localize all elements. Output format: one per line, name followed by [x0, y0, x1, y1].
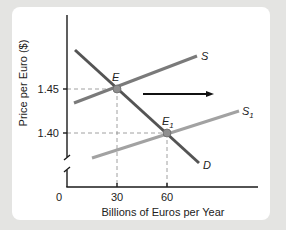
y-axis-title: Price per Euro ($) [17, 40, 29, 127]
x-axis-title: Billions of Euros per Year [102, 206, 225, 218]
x-tick-label-0: 0 [56, 191, 62, 203]
exchange-rate-chart: S S1 D E E1 1.45 1.40 0 30 60 Billions o… [0, 0, 286, 230]
demand-curve-d [75, 50, 199, 163]
axes [63, 15, 258, 187]
equilibrium-point-e [113, 85, 121, 93]
shift-arrow-icon [143, 91, 214, 97]
label-d: D [203, 159, 211, 171]
supply-curve-s [74, 56, 197, 103]
x-tick-label-60: 60 [161, 191, 173, 203]
equilibrium-point-e1 [163, 129, 171, 137]
label-s: S [201, 50, 209, 62]
x-tick-label-30: 30 [111, 191, 123, 203]
label-s1: S1 [242, 105, 254, 120]
y-tick-label-145: 1.45 [38, 83, 59, 95]
y-tick-label-140: 1.40 [38, 127, 59, 139]
label-e1: E1 [162, 115, 174, 130]
label-e: E [112, 71, 120, 83]
